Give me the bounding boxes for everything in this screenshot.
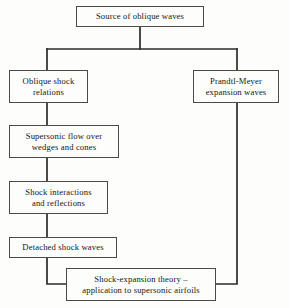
connector-detached-shock-to-shock-expansion: [47, 258, 66, 284]
node-detached-shock-waves[interactable]: Detached shock waves: [9, 237, 117, 258]
node-source-of-oblique-waves[interactable]: Source of oblique waves: [76, 6, 204, 27]
node-supersonic-flow-wedges-cones[interactable]: Supersonic flow over wedges and cones: [9, 125, 119, 158]
node-detached-shock-label: Detached shock waves: [22, 242, 103, 253]
connector-prandtl-meyer-to-shock-expansion: [216, 103, 237, 284]
node-shock-expansion-label: Shock-expansion theory – application to …: [82, 274, 200, 296]
node-oblique-shock-label: Oblique shock relations: [23, 76, 75, 98]
node-source-label: Source of oblique waves: [96, 11, 184, 22]
node-supersonic-wedges-label: Supersonic flow over wedges and cones: [26, 131, 103, 153]
flowchart-diagram: Source of oblique waves Oblique shock re…: [0, 0, 289, 308]
node-prandtl-meyer-expansion-waves[interactable]: Prandtl-Meyer expansion waves: [193, 70, 279, 103]
node-oblique-shock-relations[interactable]: Oblique shock relations: [9, 70, 88, 103]
node-prandtl-meyer-label: Prandtl-Meyer expansion waves: [206, 76, 267, 98]
node-shock-expansion-theory[interactable]: Shock-expansion theory – application to …: [66, 268, 216, 301]
node-shock-interactions-reflections[interactable]: Shock interactions and reflections: [9, 181, 108, 214]
node-shock-interactions-label: Shock interactions and reflections: [25, 187, 91, 209]
